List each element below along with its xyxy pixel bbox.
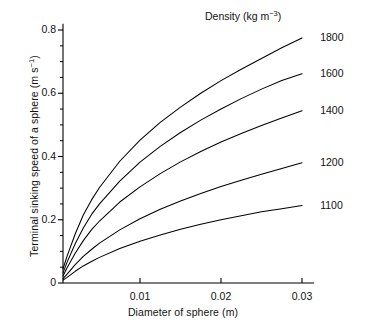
series-label-1100: 1100 [320,199,343,211]
series-label-1200: 1200 [320,156,343,168]
series-line-1200 [63,163,302,279]
x-tick-label: 0.03 [277,290,327,302]
x-tick-label: 0.01 [115,290,165,302]
y-tick-label: 0.6 [22,86,56,98]
x-tick-label: 0.02 [196,290,246,302]
series-line-1800 [63,38,302,269]
y-tick-label: 0.8 [22,23,56,35]
series-line-1100 [63,206,302,281]
chart-figure: Terminal sinking speed of a sphere (m s−… [0,0,368,331]
series-line-1400 [63,111,302,276]
series-label-1800: 1800 [320,31,343,43]
series-label-1600: 1600 [320,67,343,79]
y-tick-label: 0 [22,276,56,288]
series-label-1400: 1400 [320,104,343,116]
y-tick-label: 0.4 [22,150,56,162]
y-tick-label: 0.2 [22,213,56,225]
